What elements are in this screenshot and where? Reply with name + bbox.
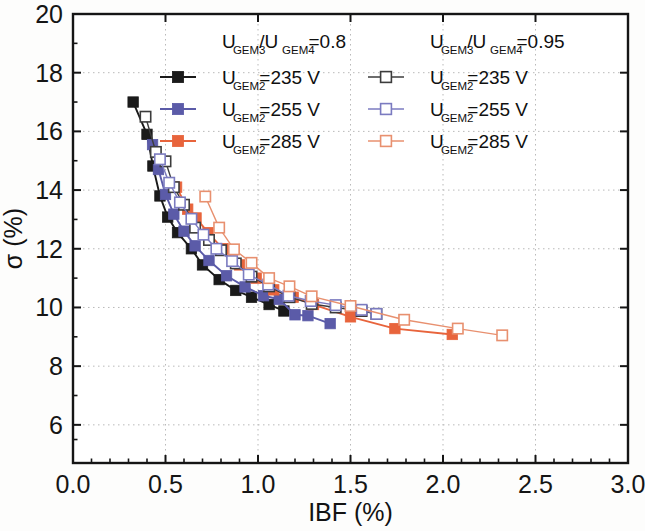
data-point-marker (169, 209, 179, 219)
legend-heading-main: =0.95 (517, 31, 565, 52)
legend-entry-label-main: =235 V (467, 67, 528, 88)
data-point-marker (303, 310, 313, 320)
data-point-marker (325, 318, 335, 328)
data-point-marker (175, 197, 185, 207)
plot-background (73, 14, 628, 463)
tick-label-x: 3.0 (611, 470, 645, 498)
tick-label-x: 0.0 (56, 470, 91, 498)
data-point-marker (221, 271, 231, 281)
legend-sample-marker (381, 104, 392, 115)
legend-entry-label-main: =285 V (467, 131, 528, 152)
data-point-marker (399, 315, 409, 325)
legend-entry-label-main: =235 V (259, 67, 320, 88)
x-axis-title: IBF (%) (308, 498, 393, 526)
data-point-marker (306, 291, 316, 301)
data-point-marker (246, 258, 256, 268)
tick-label-x: 0.5 (148, 470, 183, 498)
legend-entry-label-main: =285 V (259, 131, 320, 152)
tick-label-y: 20 (35, 0, 63, 28)
chart-svg: 0.00.51.01.52.02.53.020181614121086IBF (… (0, 0, 645, 531)
legend-sample-marker (381, 136, 392, 147)
tick-label-x: 2.0 (426, 470, 461, 498)
tick-label-y: 8 (49, 352, 63, 380)
tick-label-y: 6 (49, 411, 63, 439)
data-point-marker (345, 301, 355, 311)
data-point-marker (211, 244, 221, 254)
data-point-marker (227, 256, 237, 266)
data-point-marker (214, 222, 224, 232)
data-point-marker (186, 214, 196, 224)
tick-label-y: 16 (35, 117, 63, 145)
legend-heading-main: /U (467, 31, 486, 52)
data-point-marker (290, 310, 300, 320)
legend-entry-label-main: =255 V (467, 99, 528, 120)
tick-label-y: 10 (35, 293, 63, 321)
data-point-marker (229, 244, 239, 254)
data-point-marker (264, 273, 274, 283)
data-point-marker (198, 229, 208, 239)
legend-sample-marker (172, 103, 183, 114)
data-point-marker (179, 226, 189, 236)
data-point-marker (140, 112, 150, 122)
tick-label-x: 2.5 (518, 470, 553, 498)
data-point-marker (240, 282, 250, 292)
legend-entry-label-main: =255 V (259, 99, 320, 120)
data-point-marker (128, 97, 138, 107)
data-point-marker (200, 191, 210, 201)
data-point-marker (155, 154, 165, 164)
tick-label-x: 1.5 (333, 470, 368, 498)
tick-label-x: 1.0 (241, 470, 276, 498)
legend-sample-marker (172, 135, 183, 146)
legend-sample-marker (172, 71, 183, 82)
legend-heading-main: =0.8 (309, 31, 347, 52)
tick-label-y: 18 (35, 59, 63, 87)
data-point-marker (284, 281, 294, 291)
data-point-marker (244, 269, 254, 279)
data-point-marker (204, 255, 214, 265)
data-point-marker (246, 292, 256, 302)
tick-label-y: 14 (35, 176, 63, 204)
data-point-marker (345, 312, 355, 322)
figure-canvas: 0.00.51.01.52.02.53.020181614121086IBF (… (0, 0, 645, 531)
tick-label-y: 12 (35, 235, 63, 263)
data-point-marker (164, 178, 174, 188)
data-point-marker (231, 285, 241, 295)
legend-sample-marker (381, 72, 392, 83)
data-point-marker (497, 330, 507, 340)
data-point-marker (190, 241, 200, 251)
data-point-marker (453, 323, 463, 333)
legend-heading-main: /U (259, 31, 278, 52)
y-axis-title: σ (%) (0, 208, 27, 269)
